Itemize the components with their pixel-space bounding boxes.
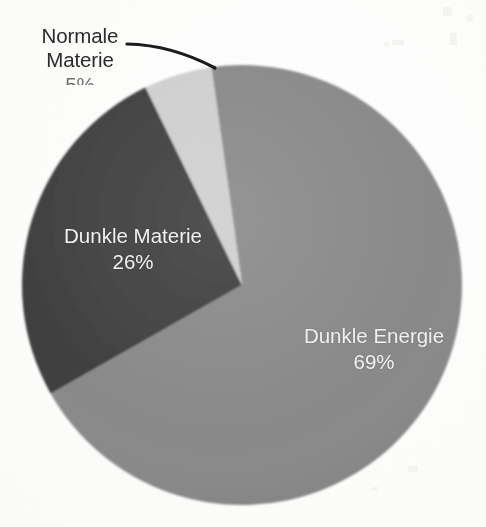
slice-label-dunkle-materie-name: Dunkle Materie: [64, 224, 202, 247]
slice-label-normale-materie-line2: Materie: [24, 48, 136, 72]
slice-label-dunkle-energie: Dunkle Energie 69%: [292, 324, 456, 374]
slice-value-dunkle-materie: 26%: [42, 250, 224, 274]
leader-line-normale-materie: [127, 44, 215, 68]
slice-value-dunkle-energie: 69%: [292, 350, 456, 374]
slice-label-dunkle-energie-name: Dunkle Energie: [304, 324, 444, 347]
slice-value-normale-materie: 5%: [24, 73, 136, 85]
slice-label-dunkle-materie: Dunkle Materie 26%: [42, 224, 224, 274]
pie-chart-figure: Normale Materie 5% Dunkle Materie 26% Du…: [0, 0, 486, 527]
slice-label-normale-materie: Normale Materie 5%: [24, 24, 136, 85]
slice-label-normale-materie-line1: Normale: [24, 24, 136, 48]
